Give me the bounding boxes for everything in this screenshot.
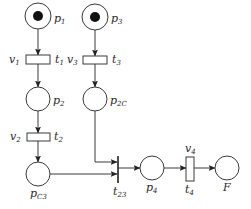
- svg-text:t1: t1: [55, 53, 64, 67]
- svg-text:p1: p1: [54, 12, 66, 26]
- arc-p2c-t23: [95, 111, 117, 162]
- svg-text:t4: t4: [185, 183, 194, 197]
- svg-text:p2: p2: [53, 94, 65, 108]
- place-p4: p4: [140, 156, 164, 195]
- svg-text:F: F: [222, 181, 231, 194]
- token: [33, 11, 43, 21]
- svg-text:pC3: pC3: [30, 187, 47, 201]
- svg-text:t2: t2: [54, 130, 63, 144]
- transition-t1: v1 t1: [9, 53, 64, 67]
- svg-text:v3: v3: [67, 53, 78, 67]
- place-p2c: p2C: [83, 87, 128, 111]
- svg-text:p4: p4: [146, 181, 158, 195]
- place-p1: p1: [25, 3, 66, 29]
- svg-text:v4: v4: [185, 142, 196, 156]
- svg-text:p2C: p2C: [110, 94, 128, 108]
- token: [90, 12, 100, 22]
- transition-t4: v4 t4: [185, 142, 196, 197]
- svg-text:p3: p3: [111, 12, 123, 26]
- transition-t3: v3 t3: [67, 53, 121, 67]
- place-p3: p3: [82, 4, 123, 30]
- place-p2: p2: [26, 87, 65, 111]
- svg-text:t23: t23: [113, 185, 127, 199]
- place-f: F: [215, 156, 239, 194]
- svg-text:t3: t3: [112, 53, 121, 67]
- svg-text:v1: v1: [9, 53, 20, 67]
- transition-t2: v2 t2: [10, 130, 63, 144]
- place-pc3: pC3: [26, 162, 50, 201]
- petri-net-diagram: p1 p3 p2 p2C pC3 p4 F v1 t1 v3 t3 v2 t2: [0, 0, 251, 209]
- svg-text:v2: v2: [10, 130, 21, 144]
